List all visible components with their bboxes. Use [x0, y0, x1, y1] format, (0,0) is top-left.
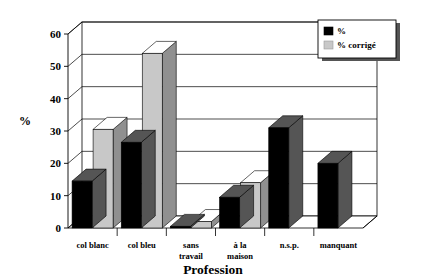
- bar-side: [338, 151, 352, 228]
- bar-front: [318, 163, 338, 228]
- bar-front: [269, 128, 289, 228]
- x-axis-title: Profession: [183, 262, 243, 277]
- bar-series-1-4: [269, 116, 303, 228]
- bar-front: [220, 197, 240, 228]
- bar-series-1-5: [318, 151, 352, 228]
- bar-series-1-1: [121, 130, 155, 228]
- category-label-3: maison: [227, 251, 253, 261]
- category-label-4: n.s.p.: [280, 240, 299, 250]
- y-axis-title: %: [19, 114, 31, 128]
- category-label-0: col blanc: [76, 240, 109, 250]
- y-tick-label: 40: [50, 93, 62, 105]
- legend-swatch-series-1: [324, 27, 333, 35]
- category-label-1: col bleu: [128, 240, 156, 250]
- legend-label-series-1: %: [337, 26, 346, 36]
- y-tick-label: 20: [50, 157, 62, 169]
- legend[interactable]: % % corrigé: [318, 20, 400, 61]
- legend-label-series-2: % corrigé: [337, 40, 376, 50]
- bar-front: [170, 226, 190, 228]
- bar-side: [162, 41, 176, 228]
- category-label-2: travail: [179, 251, 204, 261]
- bar-side: [141, 130, 155, 228]
- y-tick-label: 10: [50, 190, 62, 202]
- category-label-3: à la: [234, 240, 248, 250]
- y-tick-label: 60: [50, 28, 62, 40]
- bar-side: [289, 116, 303, 228]
- bar-front: [121, 142, 141, 228]
- y-tick-label: 30: [50, 125, 62, 137]
- category-label-2: sans: [183, 240, 199, 250]
- legend-swatch-series-2: [324, 41, 333, 49]
- y-tick-label: 50: [50, 60, 62, 72]
- bar-series-1-0: [72, 169, 106, 228]
- category-label-5: manquant: [320, 240, 357, 250]
- y-tick-label: 0: [56, 222, 62, 234]
- legend-box: [318, 20, 396, 58]
- bar-chart: 0102030405060 col blanccol bleusanstrava…: [0, 0, 426, 280]
- bar-front: [72, 181, 92, 228]
- chart-canvas: 0102030405060 col blanccol bleusanstrava…: [0, 0, 426, 280]
